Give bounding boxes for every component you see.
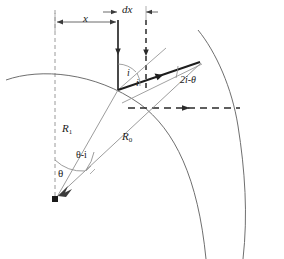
- dx-dim-arrow-left: [146, 10, 152, 14]
- dx-dim-arrow-right: [111, 10, 117, 14]
- center-point-marker: [52, 196, 58, 202]
- R0-subscript: 0: [129, 136, 133, 144]
- incident-ray-dashed-arrow: [143, 50, 149, 57]
- normal-construction-line: [118, 48, 166, 90]
- label-incidence-lower: i: [136, 78, 139, 88]
- inner-arc-R1: [6, 74, 206, 259]
- R1-subscript: 1: [69, 128, 73, 136]
- label-radius-R1: R1: [62, 123, 72, 136]
- label-theta: θ: [58, 168, 63, 179]
- theta-minus-i-tick-b: [90, 169, 95, 174]
- label-deviation-angle: 2i-θ: [180, 75, 196, 85]
- label-dx: dx: [122, 4, 132, 15]
- R0-letter: R: [122, 130, 129, 142]
- diagram-canvas: [0, 0, 284, 259]
- ray-diagram-figure: dx x i i 2i-θ R1 R0 θ θ-i: [0, 0, 284, 259]
- label-theta-minus-i: θ-i: [76, 150, 87, 160]
- radius-R1-line: [57, 90, 118, 197]
- x-dim-arrow-right: [110, 20, 116, 25]
- outer-arc-R0: [198, 30, 245, 259]
- x-dim-arrow-left: [57, 20, 63, 25]
- label-incidence-upper: i: [127, 68, 130, 78]
- label-x: x: [83, 13, 88, 24]
- deviation-text: 2i-θ: [180, 74, 196, 85]
- R1-letter: R: [62, 122, 69, 134]
- label-radius-R0: R0: [122, 131, 132, 144]
- incident-ray-arrow: [115, 49, 121, 56]
- horizontal-dashed-arrow: [182, 105, 190, 111]
